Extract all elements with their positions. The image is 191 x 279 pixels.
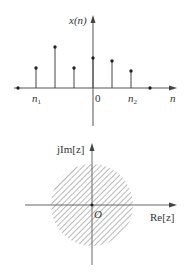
re-axis-arrow-icon [169, 203, 177, 208]
z-origin-label: O [94, 208, 102, 220]
x-axis-label: n [170, 92, 176, 104]
z-plane: jIm[z] Re[z] O [25, 143, 177, 265]
xn-axis-arrow-icon [91, 15, 96, 23]
n2-label: n2 [128, 92, 138, 106]
stem-point [148, 86, 151, 89]
im-axis-label: jIm[z] [56, 143, 84, 155]
y-axis-label: x(n) [68, 14, 87, 27]
n-axis-arrow-icon [169, 86, 177, 91]
stem-point [34, 66, 37, 69]
stem-point [53, 45, 56, 48]
stems [16, 45, 151, 89]
stem-plot: x(n) n 0 n1 n2 [14, 14, 177, 126]
stem-point [16, 86, 19, 89]
origin-label: 0 [95, 92, 101, 104]
re-axis-label: Re[z] [150, 211, 174, 223]
stem-point [72, 66, 75, 69]
stem-point [91, 56, 94, 59]
origin-dot [90, 203, 93, 206]
n1-label: n1 [32, 92, 42, 106]
im-axis-arrow-icon [90, 143, 95, 151]
stem-point [110, 59, 113, 62]
stem-point [129, 69, 132, 72]
diagram-canvas: x(n) n 0 n1 n2 jIm[z] Re[z] O [0, 0, 191, 279]
